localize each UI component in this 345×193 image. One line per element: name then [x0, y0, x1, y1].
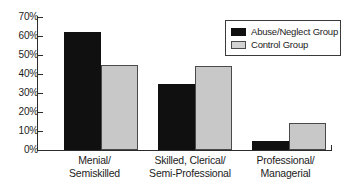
y-tick-50: 50% [0, 50, 38, 60]
y-tick-label-10: 10% [6, 126, 38, 136]
legend-item-abuse-neglect: Abuse/Neglect Group [231, 25, 335, 38]
y-tick-20: 20% [0, 107, 38, 117]
category-label-menial-line1: Menial/ [78, 154, 110, 166]
bar-professional-abuse [252, 141, 289, 151]
bar-skilled-control [195, 66, 232, 150]
y-tick-10: 10% [0, 126, 38, 136]
legend-swatch-abuse-neglect [231, 28, 246, 36]
bar-menial-abuse [64, 32, 101, 150]
bar-chart: 70% 60% 50% 40% 30% 20% 10% 0% Menial/ [0, 0, 345, 193]
y-tick-label-50: 50% [6, 50, 38, 60]
legend-label-abuse-neglect: Abuse/Neglect Group [251, 27, 338, 37]
y-tick-0: 0% [0, 145, 38, 155]
y-tick-label-70: 70% [6, 12, 38, 22]
x-axis-line [37, 150, 332, 151]
y-tick-40: 40% [0, 69, 38, 79]
y-tick-label-20: 20% [6, 107, 38, 117]
bar-professional-control [289, 123, 326, 150]
chart-legend: Abuse/Neglect Group Control Group [225, 20, 341, 56]
legend-label-control: Control Group [251, 40, 308, 50]
bar-skilled-abuse [158, 84, 195, 151]
y-tick-label-40: 40% [6, 69, 38, 79]
y-tick-label-30: 30% [6, 88, 38, 98]
category-label-professional-line2: Managerial [233, 167, 338, 180]
legend-swatch-control [231, 41, 246, 49]
category-label-skilled-line1: Skilled, Clerical/ [154, 154, 225, 166]
bar-menial-control [101, 65, 138, 151]
y-tick-70: 70% [0, 12, 38, 22]
legend-item-control: Control Group [231, 38, 335, 51]
y-tick-label-0: 0% [6, 145, 38, 155]
y-tick-label-60: 60% [6, 31, 38, 41]
category-label-professional-line1: Professional/ [256, 154, 314, 166]
y-tick-60: 60% [0, 31, 38, 41]
category-label-professional: Professional/ Managerial [233, 154, 338, 179]
y-tick-30: 30% [0, 88, 38, 98]
